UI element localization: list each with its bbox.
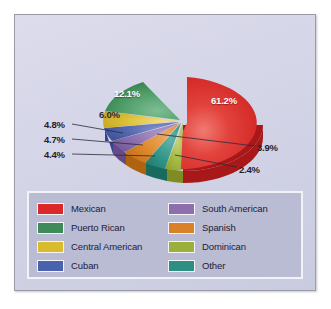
legend-item-puerto-rican: Puerto Rican (37, 218, 162, 237)
legend-swatch-icon (168, 222, 195, 234)
chart-legend: Mexican South American Puerto Rican Span… (27, 191, 303, 279)
legend-swatch-icon (168, 241, 195, 253)
legend-label: Cuban (71, 260, 99, 271)
legend-label: Mexican (71, 203, 106, 214)
legend-label: Spanish (202, 222, 236, 233)
legend-item-dominican: Dominican (168, 237, 293, 256)
slice-label-mexican: 61.2% (211, 95, 237, 106)
slice-label-dominican: 2.4% (239, 164, 260, 175)
slice-label-central-american: 6.0% (99, 109, 120, 120)
legend-label: Central American (71, 241, 142, 252)
figure-panel: 61.2% 12.1% 6.0% 4.8% 4.7% 4.4% 3.9% 2.4… (14, 14, 316, 291)
legend-item-mexican: Mexican (37, 199, 162, 218)
slice-label-south-american: 4.7% (44, 134, 65, 145)
pie-chart-graphic (15, 15, 315, 190)
legend-swatch-icon (168, 260, 195, 272)
slice-label-other: 3.9% (257, 142, 278, 153)
slice-label-cuban: 4.8% (44, 119, 65, 130)
slice-label-puerto-rican: 12.1% (114, 88, 140, 99)
legend-swatch-icon (37, 203, 64, 215)
slice-label-spanish: 4.4% (44, 149, 65, 160)
legend-label: Other (202, 260, 225, 271)
legend-item-central-american: Central American (37, 237, 162, 256)
legend-swatch-icon (37, 222, 64, 234)
legend-item-spanish: Spanish (168, 218, 293, 237)
legend-item-other: Other (168, 256, 293, 275)
legend-item-cuban: Cuban (37, 256, 162, 275)
legend-swatch-icon (37, 241, 64, 253)
pie-chart-area: 61.2% 12.1% 6.0% 4.8% 4.7% 4.4% 3.9% 2.4… (15, 15, 315, 190)
legend-swatch-icon (37, 260, 64, 272)
legend-swatch-icon (168, 203, 195, 215)
legend-label: Puerto Rican (71, 222, 125, 233)
legend-label: Dominican (202, 241, 246, 252)
legend-label: South American (202, 203, 268, 214)
legend-item-south-american: South American (168, 199, 293, 218)
